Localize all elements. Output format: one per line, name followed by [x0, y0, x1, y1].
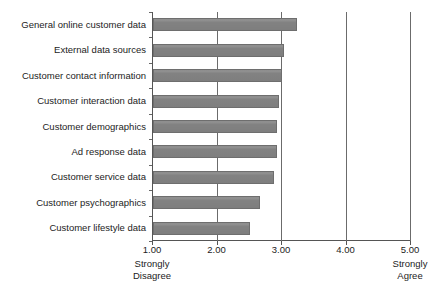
gridline [410, 12, 411, 241]
plot-area [152, 12, 410, 241]
y-axis-tick [149, 241, 152, 242]
y-axis-tick [149, 114, 152, 115]
bar [153, 222, 250, 235]
bar [153, 69, 282, 82]
category-label: Customer interaction data [0, 96, 146, 106]
scale-anchor-high: Strongly Agree [393, 258, 428, 281]
category-axis-labels: General online customer data External da… [0, 12, 150, 241]
scale-anchor-high-line2: Agree [393, 270, 428, 282]
category-label: Customer demographics [0, 122, 146, 132]
category-label: Customer psychographics [0, 198, 146, 208]
bar-chart: General online customer data External da… [0, 0, 442, 297]
y-axis-tick [149, 12, 152, 13]
bar [153, 120, 277, 133]
category-label: Customer contact information [0, 71, 146, 81]
x-axis-tick-label: 2.00 [207, 244, 226, 255]
x-axis-tick-label: 4.00 [336, 244, 355, 255]
category-label: General online customer data [0, 20, 146, 30]
y-axis-tick [149, 88, 152, 89]
bar [153, 196, 260, 209]
bar [153, 95, 279, 108]
y-axis-tick [149, 165, 152, 166]
scale-anchor-low-line2: Disagree [133, 270, 171, 282]
y-axis-tick [149, 190, 152, 191]
x-axis-tick-label: 3.00 [272, 244, 291, 255]
scale-anchor-low-line1: Strongly [133, 258, 171, 270]
y-axis-tick [149, 37, 152, 38]
scale-anchor-high-line1: Strongly [393, 258, 428, 270]
bar [153, 18, 297, 31]
scale-anchor-low: Strongly Disagree [133, 258, 171, 281]
gridline [346, 12, 347, 241]
y-axis-tick [149, 216, 152, 217]
bar [153, 145, 277, 158]
y-axis-tick [149, 63, 152, 64]
x-axis-tick-label: 1.00 [143, 244, 162, 255]
category-label: Customer lifestyle data [0, 223, 146, 233]
category-label: External data sources [0, 45, 146, 55]
bar [153, 44, 284, 57]
bar [153, 171, 274, 184]
category-label: Ad response data [0, 147, 146, 157]
category-label: Customer service data [0, 172, 146, 182]
x-axis-tick-label: 5.00 [401, 244, 420, 255]
y-axis-tick [149, 139, 152, 140]
x-axis-tick-labels: 1.002.003.004.005.00 [152, 244, 442, 258]
